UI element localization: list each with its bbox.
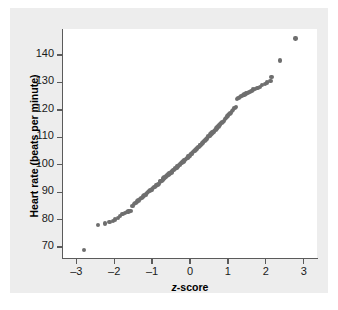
plot-area xyxy=(63,29,317,258)
x-tick-label: –2 xyxy=(102,265,126,277)
scatter-point xyxy=(234,105,238,109)
y-tick-mark xyxy=(57,246,62,247)
x-tick-mark xyxy=(303,259,304,264)
scatter-point xyxy=(293,36,297,40)
scatter-point xyxy=(269,75,273,79)
x-tick-label: 0 xyxy=(178,265,202,277)
x-tick-label: 1 xyxy=(216,265,240,277)
y-tick-mark xyxy=(57,54,62,55)
x-tick-mark xyxy=(189,259,190,264)
x-tick-mark xyxy=(114,259,115,264)
y-tick-mark xyxy=(57,137,62,138)
y-axis-label: Heart rate (beats per minute) xyxy=(28,46,40,246)
y-tick-label: 80 xyxy=(42,212,54,224)
x-tick-label: 3 xyxy=(292,265,316,277)
x-axis-label-rest: -score xyxy=(177,281,209,293)
normal-probability-plot-figure: 708090100110120130140 –3–2–10123 Heart r… xyxy=(0,0,338,310)
x-tick-label: –1 xyxy=(140,265,164,277)
x-tick-mark xyxy=(151,259,152,264)
y-tick-label: 90 xyxy=(42,184,54,196)
x-tick-mark xyxy=(227,259,228,264)
x-axis-label: z-score xyxy=(63,281,317,293)
y-tick-mark xyxy=(57,164,62,165)
y-tick-mark xyxy=(57,82,62,83)
x-tick-mark xyxy=(265,259,266,264)
scatter-point xyxy=(103,221,107,225)
scatter-point xyxy=(82,248,86,252)
x-tick-label: –3 xyxy=(64,265,88,277)
y-tick-mark xyxy=(57,192,62,193)
scatter-point xyxy=(128,209,132,213)
scatter-point xyxy=(268,79,272,83)
y-tick-mark xyxy=(57,219,62,220)
scatter-point xyxy=(278,58,282,62)
y-tick-mark xyxy=(57,109,62,110)
x-tick-label: 2 xyxy=(254,265,278,277)
x-tick-mark xyxy=(76,259,77,264)
y-tick-label: 70 xyxy=(42,239,54,251)
scatter-point xyxy=(96,223,100,227)
